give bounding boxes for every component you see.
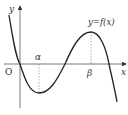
alpha-label: α [35, 52, 41, 62]
y-axis-label: y [8, 4, 15, 14]
curve-f [9, 15, 117, 102]
curve-label: y=f(x) [87, 17, 115, 27]
function-graph: y x O α β y=f(x) [0, 0, 128, 115]
beta-label: β [86, 68, 92, 78]
x-axis-label: x [121, 67, 126, 77]
origin-label: O [5, 67, 12, 77]
